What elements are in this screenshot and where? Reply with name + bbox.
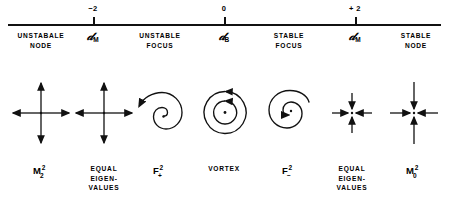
- region-heading-stable-node-line2: NODE: [374, 41, 449, 51]
- phase-portrait-vortex: [192, 74, 256, 152]
- region-heading-stable-focus-line2: FOCUS: [247, 41, 331, 51]
- phase-portrait-inward-star-node-large: [382, 74, 446, 152]
- region-heading-unstable-node-line1: UNSTABALE: [0, 31, 83, 41]
- caption-f-sup-left: 2: [160, 164, 164, 171]
- axis-symbol-d-m-right: 𝒹M: [333, 30, 377, 46]
- parameter-axis-line: [8, 24, 441, 26]
- phase-portrait-outward-star-node-2: [72, 74, 136, 152]
- caption-m-sub-right: 0: [413, 172, 417, 179]
- region-heading-stable-focus: STABLE FOCUS: [247, 31, 331, 50]
- phase-portrait-outward-star-node-1: [9, 74, 73, 152]
- outward-star-svg-1: [9, 74, 73, 152]
- outward-spiral-svg: [130, 74, 194, 152]
- region-heading-stable-focus-line1: STABLE: [247, 31, 331, 41]
- phase-portrait-outward-spiral: [130, 74, 194, 152]
- axis-symbol-d-b: 𝒹B: [202, 30, 246, 46]
- inward-star-large-svg: [382, 74, 446, 152]
- inward-star-small-svg: [320, 74, 384, 152]
- axis-tick-label-plus-2: + 2: [335, 4, 375, 13]
- caption-m-sub-left: 2: [40, 172, 44, 179]
- region-heading-unstable-node-line2: NODE: [0, 41, 83, 51]
- region-heading-unstable-focus-line1: UNSTABLE: [118, 31, 202, 41]
- inward-spiral-svg: [257, 74, 321, 152]
- region-heading-unstable-focus: UNSTABLE FOCUS: [118, 31, 202, 50]
- caption-equal-left-line3: VALUES: [62, 183, 146, 193]
- vortex-svg: [192, 74, 256, 152]
- region-heading-unstable-focus-line2: FOCUS: [118, 41, 202, 51]
- axis-tick-minus-2: [93, 17, 95, 24]
- caption-f-sub-left: +: [158, 172, 162, 179]
- caption-f-sup-right: 2: [289, 164, 293, 171]
- outward-star-svg-2: [72, 74, 136, 152]
- caption-equal-right-line3: VALUES: [310, 183, 394, 193]
- script-d-subscript-right: M: [355, 36, 361, 43]
- caption-m-squared-0: M20: [372, 163, 449, 179]
- caption-m-sup-left: 2: [42, 164, 46, 171]
- phase-portrait-inward-star-node-small: [320, 74, 384, 152]
- region-heading-stable-node: STABLE NODE: [374, 31, 449, 50]
- axis-tick-zero: [224, 17, 226, 24]
- caption-m-sup-right: 2: [415, 164, 419, 171]
- caption-f-sub-right: −: [287, 172, 291, 179]
- region-heading-unstable-node: UNSTABALE NODE: [0, 31, 83, 50]
- axis-tick-label-minus-2: −2: [73, 4, 113, 13]
- script-d-subscript-center: B: [225, 36, 230, 43]
- phase-portrait-inward-spiral: [257, 74, 321, 152]
- axis-tick-label-zero: 0: [204, 4, 244, 13]
- script-d-subscript-left: M: [93, 36, 99, 43]
- region-heading-stable-node-line1: STABLE: [374, 31, 449, 41]
- axis-tick-plus-2: [355, 17, 357, 24]
